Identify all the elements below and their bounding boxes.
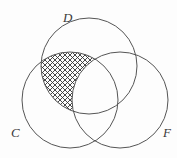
set-label-f: F: [162, 125, 172, 140]
set-label-d: D: [62, 10, 73, 25]
set-label-c: C: [11, 125, 20, 140]
venn-diagram-canvas: D C F: [0, 0, 177, 158]
venn-diagram-figure: D C F: [0, 0, 177, 158]
